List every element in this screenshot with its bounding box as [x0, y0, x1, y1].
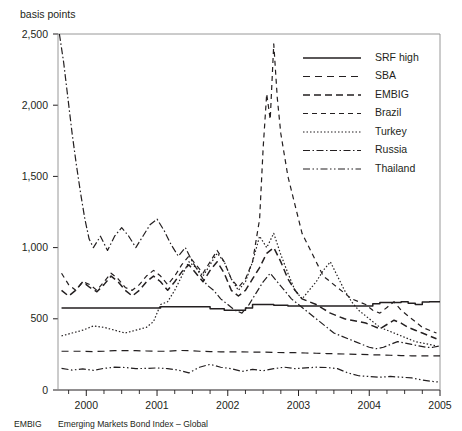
legend-label-srf-high: SRF high [375, 51, 419, 63]
legend-label-brazil: Brazil [375, 106, 401, 118]
chart-legend: SRF highSBAEMBIGBrazilTurkeyRussiaThaila… [303, 51, 419, 174]
x-axis-tick-labels: 200020012002200320042005 [75, 399, 452, 411]
x-axis-tick-marks [69, 390, 440, 396]
series-line-turkey [62, 233, 437, 345]
legend-label-embig: EMBIG [375, 88, 409, 100]
legend-label-thailand: Thailand [375, 162, 415, 174]
series-line-srf-high [62, 302, 440, 311]
legend-label-russia: Russia [375, 143, 407, 155]
footnote: EMBIGEmerging Markets Bond Index – Globa… [14, 419, 208, 429]
y-axis-tick-label: 0 [42, 384, 48, 396]
legend-label-sba: SBA [375, 69, 396, 81]
y-axis-tick-label: 2,500 [22, 28, 48, 40]
footnote-abbr: EMBIG [14, 419, 58, 429]
y-axis-tick-label: 1,000 [22, 241, 48, 253]
legend-label-turkey: Turkey [375, 125, 407, 137]
x-axis-tick-label: 2002 [216, 399, 240, 411]
footnote-expansion: Emerging Markets Bond Index – Global [58, 419, 208, 429]
x-axis-tick-label: 2000 [75, 399, 99, 411]
y-axis-tick-label: 2,000 [22, 99, 48, 111]
x-axis-tick-label: 2004 [358, 399, 382, 411]
y-axis-tick-label: 500 [30, 312, 48, 324]
x-axis-tick-label: 2005 [428, 399, 452, 411]
y-axis-tick-marks [53, 34, 58, 390]
y-axis-tick-label: 1,500 [22, 170, 48, 182]
y-axis-tick-labels: 05001,0001,5002,0002,500 [22, 28, 48, 396]
x-axis-tick-label: 2001 [145, 399, 169, 411]
series-line-thailand [62, 364, 440, 382]
series-paths [59, 34, 440, 382]
line-chart: 05001,0001,5002,0002,500 200020012002200… [0, 0, 462, 431]
series-line-embig [62, 248, 437, 339]
series-line-sba [62, 350, 440, 355]
chart-page: basis points 05001,0001,5002,0002,500 20… [0, 0, 462, 431]
x-axis-tick-label: 2003 [287, 399, 311, 411]
